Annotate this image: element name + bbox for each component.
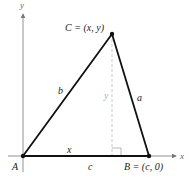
side-c-label: c bbox=[88, 161, 93, 172]
triangle bbox=[23, 34, 149, 156]
side-b-label: b bbox=[58, 85, 63, 96]
vertex-c-label: C = (x, y) bbox=[65, 22, 105, 34]
height-y-label: y bbox=[103, 90, 109, 101]
base-x-label: x bbox=[66, 144, 72, 155]
right-angle-marker bbox=[112, 148, 121, 156]
vertex-b-dot bbox=[147, 154, 151, 158]
triangle-diagram: y x C = (x, y) A B = (c, 0) b a c x y bbox=[0, 0, 189, 186]
x-axis-label: x bbox=[179, 151, 184, 161]
vertex-a-label: A bbox=[11, 161, 19, 172]
vertex-a-dot bbox=[21, 154, 25, 158]
vertex-c-dot bbox=[110, 32, 114, 36]
side-a-label: a bbox=[137, 92, 142, 103]
vertex-b-label: B = (c, 0) bbox=[124, 161, 164, 173]
y-axis-label: y bbox=[19, 0, 24, 10]
